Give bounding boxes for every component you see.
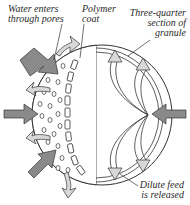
leader-section: [128, 40, 150, 56]
inflow-arrow-3: [28, 150, 56, 178]
inflow-arrow-1: [20, 48, 58, 76]
label-polymer-coat: Polymer coat: [82, 4, 116, 24]
label-three-quarter-section: Three-quarter section of granule: [130, 8, 186, 38]
label-water-enters: Water enters through pores: [8, 4, 64, 24]
granule-diagram: Water enters through pores Polymer coat …: [0, 0, 190, 205]
label-dilute-feed: Dilute feed is released: [140, 180, 184, 200]
